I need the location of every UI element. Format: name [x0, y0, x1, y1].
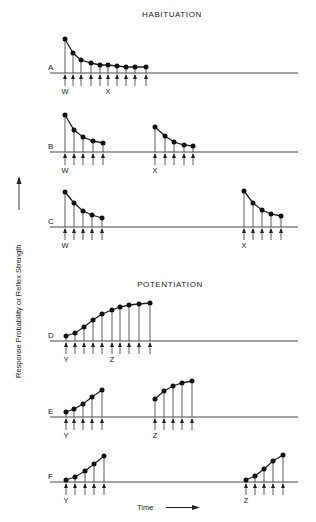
y-axis-label-group: Response Probability or Reflex Strength — [14, 176, 23, 378]
stimulus-group: Y — [63, 454, 106, 506]
response-dot — [102, 454, 107, 459]
stimulus-arrowhead-icon — [269, 228, 273, 233]
response-dot — [180, 381, 185, 386]
stimulus-arrowhead-icon — [118, 342, 122, 347]
row-label: F — [48, 472, 53, 481]
response-dot — [148, 301, 153, 306]
stimulus-label: Z — [153, 431, 158, 440]
potentiation-title: POTENTIATION — [137, 280, 203, 289]
stimulus-arrowhead-icon — [162, 418, 166, 423]
response-dot — [63, 190, 68, 195]
row-d: DYZ — [48, 301, 298, 365]
stimulus-arrowhead-icon — [91, 342, 95, 347]
stimulus-arrowhead-icon — [82, 342, 86, 347]
stimulus-arrowhead-icon — [73, 342, 77, 347]
response-dot — [137, 302, 142, 307]
row-label: D — [48, 331, 54, 340]
row-b: BWX — [48, 113, 298, 176]
stimulus-arrowhead-icon — [90, 228, 94, 233]
response-curve — [66, 303, 150, 336]
stimulus-label: X — [105, 87, 110, 96]
stimulus-arrowhead-icon — [262, 483, 266, 488]
row-a: AWX — [48, 37, 298, 97]
stimulus-arrowhead-icon — [133, 74, 137, 79]
y-axis-arrowhead-icon — [17, 176, 22, 184]
response-dot — [64, 410, 69, 415]
stimulus-label: X — [152, 166, 157, 175]
row-c: CWX — [48, 189, 298, 251]
stimulus-arrowhead-icon — [153, 153, 157, 158]
response-dot — [110, 308, 115, 313]
response-dot — [253, 474, 258, 479]
response-dot — [115, 64, 120, 69]
response-dot — [91, 318, 96, 323]
response-dot — [133, 65, 138, 70]
stimulus-group: YZ — [63, 301, 152, 365]
habituation-title: HABITUATION — [142, 10, 202, 19]
response-dot — [171, 384, 176, 389]
response-dot — [98, 63, 103, 68]
stimulus-arrowhead-icon — [64, 418, 68, 423]
response-dot — [81, 209, 86, 214]
y-axis-label: Response Probability or Reflex Strength — [14, 245, 23, 378]
response-dot — [63, 37, 68, 42]
stimulus-arrowhead-icon — [100, 342, 104, 347]
response-dot — [91, 139, 96, 144]
response-dot — [100, 216, 105, 221]
x-axis-label: Time — [137, 503, 153, 512]
stimulus-arrowhead-icon — [171, 418, 175, 423]
response-dot — [64, 334, 69, 339]
stimulus-arrowhead-icon — [71, 74, 75, 79]
response-dot — [182, 143, 187, 148]
stimulus-arrowhead-icon — [191, 153, 195, 158]
response-dot — [72, 128, 77, 133]
stimulus-arrowhead-icon — [182, 153, 186, 158]
stimulus-label: Z — [110, 355, 115, 364]
response-dot — [127, 303, 132, 308]
stimulus-arrowhead-icon — [64, 483, 68, 488]
stimulus-arrowhead-icon — [242, 228, 246, 233]
stimulus-arrowhead-icon — [190, 418, 194, 423]
stimulus-arrowhead-icon — [64, 342, 68, 347]
response-dot — [100, 312, 105, 317]
row-f: FYZ — [48, 453, 298, 506]
response-dot — [124, 65, 129, 70]
stimulus-label: Y — [63, 431, 68, 440]
response-dot — [190, 379, 195, 384]
response-dot — [83, 469, 88, 474]
response-dot — [100, 388, 105, 393]
response-dot — [153, 125, 158, 130]
response-dot — [281, 453, 286, 458]
stimulus-group: W — [61, 190, 104, 251]
stimulus-arrowhead-icon — [81, 153, 85, 158]
stimulus-arrowhead-icon — [63, 153, 67, 158]
response-dot — [89, 61, 94, 66]
stimulus-arrowhead-icon — [271, 483, 275, 488]
x-axis-label-group: Time — [137, 503, 200, 512]
response-dot — [279, 214, 284, 219]
response-dot — [191, 144, 196, 149]
response-dot — [73, 475, 78, 480]
stimulus-arrowhead-icon — [100, 228, 104, 233]
stimulus-arrowhead-icon — [172, 153, 176, 158]
response-dot — [79, 58, 84, 63]
stimulus-arrowhead-icon — [180, 418, 184, 423]
stimulus-arrowhead-icon — [106, 74, 110, 79]
stimulus-arrowhead-icon — [79, 74, 83, 79]
stimulus-arrowhead-icon — [83, 483, 87, 488]
habituation-potentiation-diagram: HABITUATION POTENTIATION Response Probab… — [0, 0, 316, 522]
response-dot — [64, 478, 69, 483]
row-label: B — [48, 142, 53, 151]
stimulus-arrowhead-icon — [279, 228, 283, 233]
stimulus-arrowhead-icon — [89, 74, 93, 79]
response-dot — [144, 65, 149, 70]
response-dot — [90, 213, 95, 218]
stimulus-arrowhead-icon — [251, 228, 255, 233]
response-dot — [81, 135, 86, 140]
response-dot — [172, 140, 177, 145]
stimulus-arrowhead-icon — [124, 74, 128, 79]
response-dot — [163, 134, 168, 139]
response-dot — [63, 113, 68, 118]
stimulus-arrowhead-icon — [73, 483, 77, 488]
response-dot — [106, 63, 111, 68]
